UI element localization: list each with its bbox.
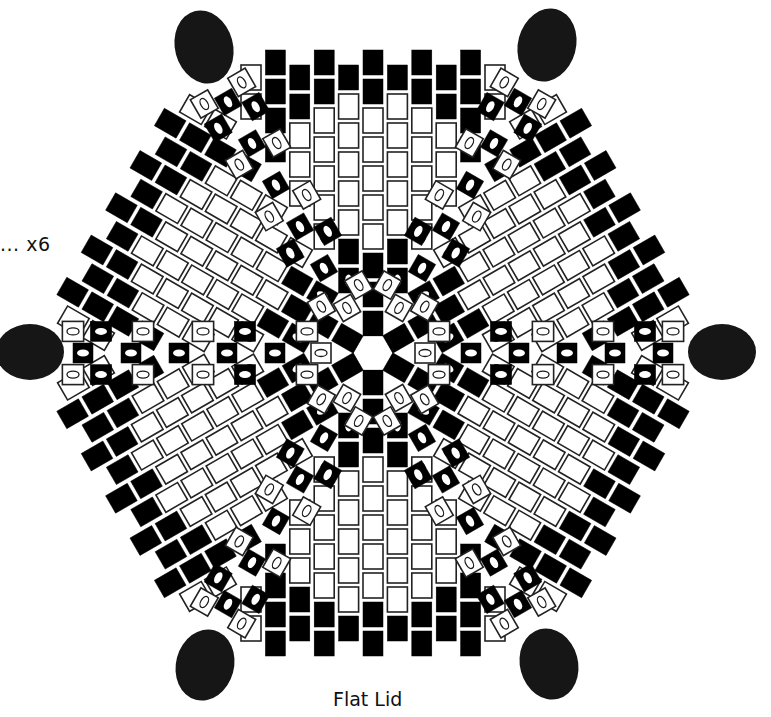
bead <box>387 500 407 525</box>
spoke-bead <box>509 343 529 363</box>
bead <box>387 529 407 554</box>
bead <box>387 94 407 119</box>
bead <box>387 210 407 235</box>
bead <box>387 587 407 612</box>
repeat-label: ... x6 <box>0 233 51 255</box>
spoke-side-bead <box>490 365 511 385</box>
spoke-side-bead <box>428 365 449 385</box>
spoke-side-bead <box>90 321 111 341</box>
spoke-side-bead <box>662 365 683 385</box>
bead <box>290 529 310 554</box>
spoke-side-bead <box>662 321 683 341</box>
bead <box>387 181 407 206</box>
bead <box>412 137 432 162</box>
bead <box>339 471 359 496</box>
bead <box>363 166 383 191</box>
bead <box>363 253 383 278</box>
spoke-side-bead <box>234 365 255 385</box>
diagram-caption: Flat Lid <box>333 688 402 710</box>
spoke-side-bead <box>634 365 655 385</box>
bead <box>314 137 334 162</box>
bead <box>387 65 407 90</box>
anchor-bead-oval <box>168 623 243 708</box>
bead <box>339 152 359 177</box>
spoke-side-bead <box>490 321 511 341</box>
bead <box>461 631 481 656</box>
bead <box>339 558 359 583</box>
bead <box>290 65 310 90</box>
bead <box>290 587 310 612</box>
anchor-bead-oval <box>509 2 584 88</box>
spoke-side-bead <box>132 365 153 385</box>
spoke-bead <box>605 343 625 363</box>
bead <box>265 50 285 75</box>
bead <box>363 137 383 162</box>
bead <box>314 631 334 656</box>
spoke-side-bead <box>192 365 213 385</box>
anchor-bead-oval <box>512 622 587 707</box>
bead <box>412 50 432 75</box>
bead <box>387 442 407 467</box>
spoke-bead <box>217 343 237 363</box>
bead <box>339 239 359 264</box>
bead <box>436 616 456 641</box>
bead <box>412 108 432 133</box>
bead <box>339 529 359 554</box>
bead <box>363 195 383 220</box>
bead <box>363 457 383 482</box>
bead <box>339 94 359 119</box>
spoke-side-bead <box>428 321 449 341</box>
bead <box>339 65 359 90</box>
bead <box>387 471 407 496</box>
bead <box>314 544 334 569</box>
spoke-bead <box>408 254 435 281</box>
bead <box>339 181 359 206</box>
spoke-bead <box>311 343 331 363</box>
bead <box>339 123 359 148</box>
bead <box>363 428 383 453</box>
spoke-bead <box>408 424 435 451</box>
spoke-bead <box>557 343 577 363</box>
bead <box>436 152 456 177</box>
bead <box>290 94 310 119</box>
spoke-side-bead <box>90 365 111 385</box>
spoke-side-bead <box>634 321 655 341</box>
spoke-bead <box>265 343 285 363</box>
spoke-side-bead <box>234 321 255 341</box>
bead <box>412 573 432 598</box>
bead <box>436 529 456 554</box>
bead <box>363 370 383 395</box>
spoke-side-bead <box>592 321 613 341</box>
bead <box>339 500 359 525</box>
bead <box>387 239 407 264</box>
bead <box>461 79 481 104</box>
spoke-side-bead <box>296 321 317 341</box>
bead <box>314 166 334 191</box>
bead <box>265 631 285 656</box>
spoke-side-bead <box>532 365 553 385</box>
bead <box>314 50 334 75</box>
spoke-side-bead <box>532 321 553 341</box>
spoke-side-bead <box>592 365 613 385</box>
bead <box>314 602 334 627</box>
bead <box>363 79 383 104</box>
bead <box>387 123 407 148</box>
spoke-bead <box>169 343 189 363</box>
spoke-side-bead <box>62 321 83 341</box>
bead <box>363 486 383 511</box>
bead <box>412 79 432 104</box>
bead <box>436 587 456 612</box>
anchor-bead-oval <box>0 324 64 380</box>
bead <box>461 602 481 627</box>
spoke-bead <box>310 254 337 281</box>
bead <box>363 224 383 249</box>
spoke-bead <box>286 213 313 240</box>
bead <box>436 123 456 148</box>
bead <box>363 50 383 75</box>
bead <box>436 94 456 119</box>
bead <box>412 515 432 540</box>
bead <box>363 311 383 336</box>
spoke-side-bead <box>62 365 83 385</box>
bead <box>339 210 359 235</box>
bead <box>339 616 359 641</box>
